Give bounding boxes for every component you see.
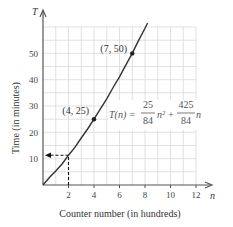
- y-axis-title: Time (in minutes): [10, 82, 22, 154]
- svg-text:50: 50: [29, 49, 39, 59]
- svg-text:30: 30: [29, 101, 39, 111]
- chart: 2 4 6 8 10 12 10 20 30 40 50 T n Counter…: [0, 0, 233, 227]
- svg-text:8: 8: [143, 190, 148, 200]
- x-axis-title: Counter number (in hundreds): [59, 208, 180, 220]
- svg-text:T(n) =: T(n) =: [109, 109, 135, 121]
- svg-text:n: n: [196, 109, 201, 120]
- arrow-left-icon: [45, 152, 51, 158]
- point-4-25: [92, 117, 96, 121]
- function-label: T(n) = 25 84 n² + 425 84 n: [108, 99, 203, 130]
- svg-text:10: 10: [29, 154, 39, 164]
- svg-text:40: 40: [29, 75, 39, 85]
- svg-text:n² +: n² +: [157, 109, 174, 120]
- svg-text:84: 84: [143, 115, 153, 126]
- y-tick-labels: 10 20 30 40 50: [29, 49, 39, 165]
- y-axis-variable: T: [32, 6, 39, 17]
- svg-text:2: 2: [66, 190, 71, 200]
- svg-text:25: 25: [143, 99, 153, 110]
- svg-text:425: 425: [179, 99, 194, 110]
- point-label-7-50: (7, 50): [100, 43, 127, 55]
- point-label-4-25: (4, 25): [62, 105, 89, 117]
- svg-text:4: 4: [92, 190, 97, 200]
- point-7-50: [130, 51, 134, 55]
- svg-text:12: 12: [192, 190, 201, 200]
- svg-text:20: 20: [29, 128, 39, 138]
- x-tick-labels: 2 4 6 8 10 12: [66, 190, 200, 200]
- x-axis-variable: n: [210, 190, 215, 201]
- svg-text:6: 6: [117, 190, 122, 200]
- svg-text:84: 84: [181, 115, 191, 126]
- svg-text:10: 10: [166, 190, 176, 200]
